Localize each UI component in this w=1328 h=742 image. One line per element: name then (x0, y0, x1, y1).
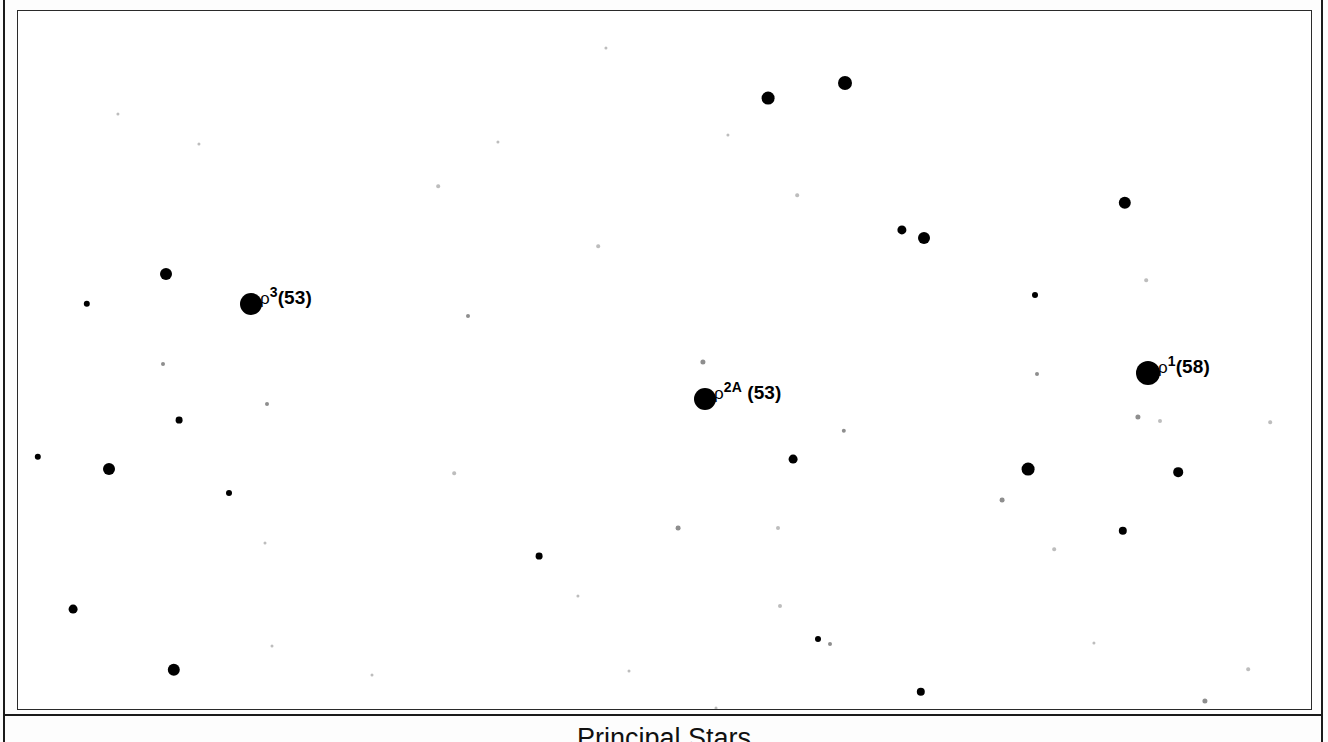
star-label-rho1: ρ1(58) (1158, 356, 1210, 378)
field-star (676, 526, 681, 531)
field-star (1022, 463, 1035, 476)
field-star (1092, 641, 1095, 644)
star-chart-frame: ρ3(53)ρ2A (53)ρ1(58) (17, 10, 1312, 710)
field-star (596, 244, 600, 248)
field-star (762, 92, 775, 105)
field-star (795, 193, 799, 197)
star-label-superscript: 2A (724, 379, 742, 395)
star-label-catalog-number: (58) (1176, 356, 1210, 377)
field-star (371, 674, 374, 677)
field-star (726, 133, 729, 136)
field-star (168, 664, 180, 676)
labeled-star-rho3 (240, 293, 262, 315)
field-star (1268, 420, 1272, 424)
field-star (496, 140, 499, 143)
field-star (176, 417, 183, 424)
star-label-rho-glyph: ρ (714, 384, 724, 403)
figure-caption: Principal Stars (5, 722, 1323, 742)
field-star (160, 268, 172, 280)
field-star (815, 636, 821, 642)
field-star (1202, 698, 1207, 703)
field-star (265, 402, 269, 406)
field-star (789, 455, 798, 464)
star-label-rho2A: ρ2A (53) (714, 382, 781, 404)
labeled-star-rho2A (694, 388, 716, 410)
field-star (1158, 419, 1162, 423)
field-star (842, 429, 846, 433)
field-star (776, 526, 780, 530)
caption-divider-rule (4, 714, 1322, 716)
field-star (161, 362, 165, 366)
field-star (1052, 547, 1056, 551)
field-star (1246, 667, 1250, 671)
field-star (1035, 372, 1039, 376)
star-label-superscript: 1 (1168, 353, 1176, 369)
field-star (197, 142, 200, 145)
field-star (1135, 414, 1140, 419)
field-star (452, 471, 456, 475)
field-star (897, 225, 906, 234)
field-star (466, 314, 470, 318)
field-star (576, 594, 579, 597)
field-star (536, 553, 543, 560)
field-star (103, 463, 115, 475)
star-label-rho3: ρ3(53) (260, 287, 312, 309)
field-star (35, 454, 41, 460)
field-star (1032, 292, 1038, 298)
field-star (778, 604, 782, 608)
field-star (84, 301, 90, 307)
field-star (1000, 498, 1005, 503)
field-star (715, 707, 718, 710)
field-star (271, 645, 274, 648)
field-star (604, 46, 607, 49)
field-star (918, 232, 930, 244)
field-star (1119, 197, 1131, 209)
field-star (700, 359, 705, 364)
star-label-rho-glyph: ρ (1158, 358, 1168, 377)
star-label-superscript: 3 (270, 284, 278, 300)
field-star (226, 490, 232, 496)
star-field: ρ3(53)ρ2A (53)ρ1(58) (18, 11, 1311, 709)
field-star (917, 688, 925, 696)
field-star (828, 642, 832, 646)
outer-frame-left-rule (3, 0, 5, 742)
field-star (436, 184, 440, 188)
field-star (69, 605, 78, 614)
field-star (264, 542, 267, 545)
chart-page: ρ3(53)ρ2A (53)ρ1(58) Principal Stars (0, 0, 1328, 742)
field-star (116, 112, 119, 115)
star-label-catalog-number: (53) (742, 382, 782, 403)
field-star (838, 76, 852, 90)
star-label-rho-glyph: ρ (260, 289, 270, 308)
field-star (1144, 278, 1148, 282)
outer-frame-right-rule (1321, 0, 1323, 742)
labeled-star-rho1 (1136, 361, 1160, 385)
field-star (1173, 467, 1183, 477)
star-label-catalog-number: (53) (278, 287, 312, 308)
field-star (628, 670, 631, 673)
field-star (1119, 527, 1127, 535)
